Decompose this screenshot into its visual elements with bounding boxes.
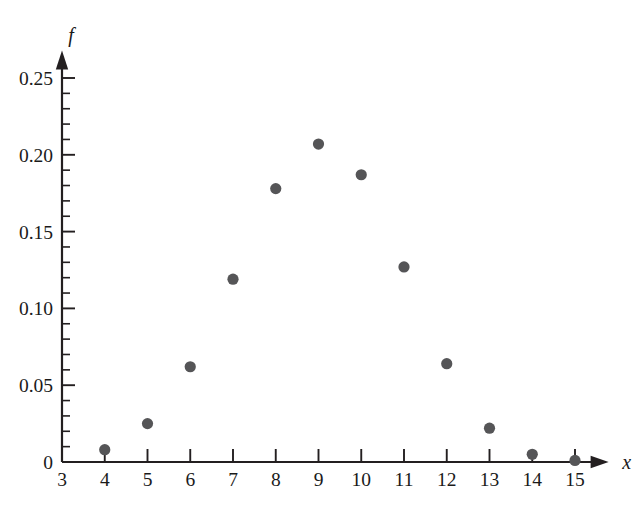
x-tick-label: 4 — [100, 469, 110, 490]
data-point — [569, 455, 580, 466]
scatter-plot: f00.050.100.150.200.25x34567891011121314… — [0, 0, 643, 510]
x-tick-label: 6 — [185, 469, 195, 490]
y-tick-label: 0.10 — [19, 298, 53, 319]
x-tick-label: 10 — [352, 469, 372, 490]
data-point — [356, 169, 367, 180]
data-point — [185, 361, 196, 372]
x-tick-label: 11 — [395, 469, 414, 490]
y-tick-label: 0.20 — [19, 145, 53, 166]
data-point — [313, 138, 324, 149]
y-tick-label: 0.25 — [19, 68, 53, 89]
y-axis-label: f — [68, 24, 76, 47]
x-tick-label: 8 — [271, 469, 281, 490]
data-point — [227, 274, 238, 285]
figure-container: f00.050.100.150.200.25x34567891011121314… — [0, 0, 643, 510]
x-axis-arrow-icon — [591, 456, 609, 468]
x-tick-label: 14 — [523, 469, 543, 490]
x-tick-label: 7 — [228, 469, 238, 490]
data-point — [142, 418, 153, 429]
data-point — [484, 423, 495, 434]
x-tick-label: 15 — [565, 469, 585, 490]
data-point — [99, 444, 110, 455]
y-tick-label: 0.15 — [19, 222, 53, 243]
y-tick-label: 0.05 — [19, 375, 53, 396]
x-tick-label: 5 — [143, 469, 153, 490]
x-tick-label: 13 — [480, 469, 500, 490]
data-point — [270, 183, 281, 194]
data-point — [398, 261, 409, 272]
y-tick-label: 0 — [43, 452, 53, 473]
y-axis-arrow-icon — [56, 51, 68, 70]
x-axis-label: x — [621, 451, 631, 473]
data-point — [441, 358, 452, 369]
data-point — [527, 449, 538, 460]
x-tick-label: 9 — [314, 469, 324, 490]
x-tick-label: 12 — [437, 469, 457, 490]
x-tick-label: 3 — [57, 469, 67, 490]
